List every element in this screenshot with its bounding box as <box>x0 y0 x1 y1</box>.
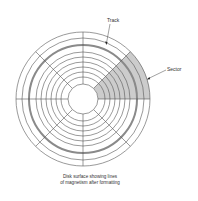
disk-diagram: Track Sector <box>0 0 198 201</box>
shaded-sector <box>94 52 150 99</box>
caption-line-2: of magnetism after formatting <box>40 180 140 186</box>
disk-hub <box>68 84 98 114</box>
diagram-caption: Disk surface showing lines of magnetism … <box>40 174 140 185</box>
radial-line-315 <box>94 110 131 147</box>
sector-label: Sector <box>167 66 182 72</box>
radial-line-135 <box>36 52 73 89</box>
track-label: Track <box>107 17 120 23</box>
sector-arrow-icon <box>147 77 150 79</box>
sector-leader-line <box>149 70 167 79</box>
track-leader-line <box>107 24 111 43</box>
radial-line-225 <box>36 110 73 147</box>
